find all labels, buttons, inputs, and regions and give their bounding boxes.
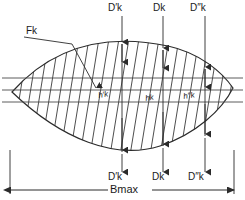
bottom-label-d: Dk: [152, 172, 164, 182]
bottom-label-d-prime: D′k: [108, 172, 122, 182]
interior-label-h-prime: h′k: [98, 91, 109, 100]
top-label-d-prime: D′k: [108, 3, 122, 13]
bottom-label-d-double-prime: D″k: [188, 172, 204, 182]
interior-label-h: hk: [145, 94, 155, 103]
bmax-label: Bmax: [110, 184, 138, 195]
diagram-canvas: Fk D′k Dk D″k h′k hk h″k D′k Dk D″k Bmax: [0, 0, 245, 200]
top-label-d-double-prime: D″k: [190, 3, 206, 13]
reference-lines: [2, 78, 243, 102]
hatch-fill: [6, 20, 245, 180]
area-label-fk: Fk: [26, 26, 37, 36]
bottom-dimension-arrows: [122, 104, 205, 172]
top-label-d: Dk: [153, 3, 165, 13]
